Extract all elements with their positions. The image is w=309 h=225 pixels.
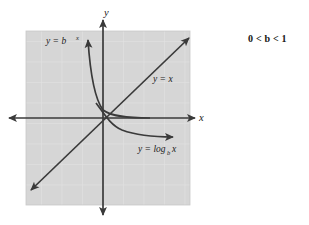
y-axis-label: y: [103, 7, 109, 18]
x-axis-label: x: [198, 112, 204, 123]
figure-container: y x y = b x y = x y = log b x 0 < b < 1: [0, 0, 309, 225]
exponential-label-text: y = b: [45, 36, 66, 46]
identity-line-label: y = x: [152, 74, 173, 84]
condition-label: 0 < b < 1: [248, 33, 287, 44]
logarithm-label-argument: x: [171, 144, 177, 154]
exponential-label-exponent: x: [75, 34, 79, 41]
logarithm-label-text: y = log: [137, 144, 166, 154]
